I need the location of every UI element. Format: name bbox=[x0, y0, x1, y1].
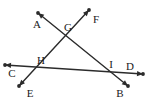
point-label-d: D bbox=[126, 61, 134, 72]
line-E-H-G-F bbox=[19, 10, 89, 86]
point-label-c: C bbox=[8, 68, 15, 79]
endpoint-dot-E bbox=[17, 84, 21, 88]
line-A-G-I-B bbox=[38, 13, 128, 86]
diagram-canvas bbox=[0, 0, 146, 104]
point-label-f: F bbox=[93, 14, 99, 25]
point-label-i: I bbox=[109, 59, 113, 70]
point-label-g: G bbox=[64, 22, 72, 33]
endpoint-dots-group bbox=[3, 8, 145, 88]
endpoint-dot-A bbox=[36, 11, 40, 15]
point-label-b: B bbox=[116, 88, 123, 99]
endpoint-dot-C bbox=[3, 63, 7, 67]
point-label-e: E bbox=[27, 88, 34, 99]
lines-group bbox=[5, 10, 143, 86]
endpoint-dot-D bbox=[141, 72, 145, 76]
point-label-a: A bbox=[33, 19, 41, 30]
line-C-H-I-D bbox=[5, 65, 143, 74]
geometry-diagram: AFGHICDEB bbox=[0, 0, 146, 104]
endpoint-dot-F bbox=[87, 8, 91, 12]
endpoint-dot-B bbox=[126, 84, 130, 88]
point-label-h: H bbox=[37, 55, 45, 66]
